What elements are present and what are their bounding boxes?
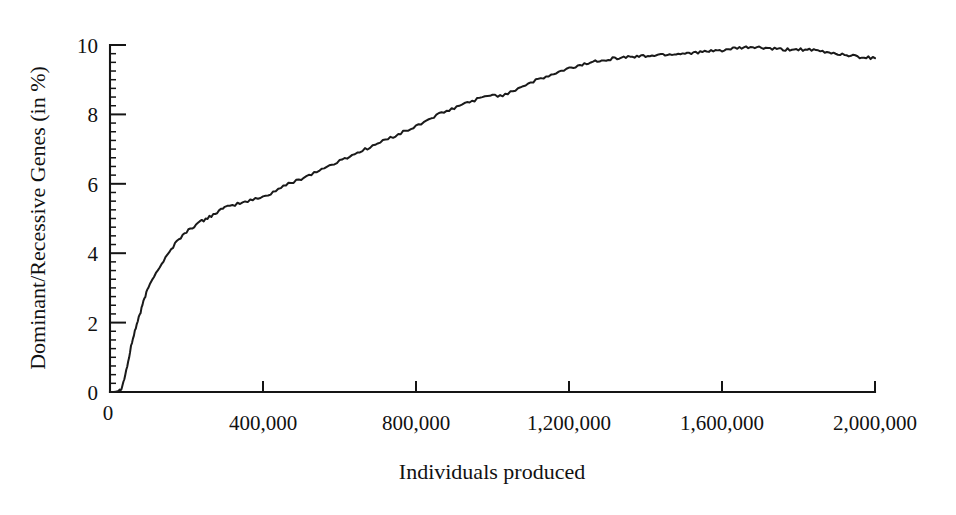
axes-group <box>110 45 875 392</box>
y-tick-label: 4 <box>88 242 99 266</box>
tick-marks-group <box>110 45 875 392</box>
x-tick-label: 0 <box>103 401 114 425</box>
x-tick-label: 1,200,000 <box>527 411 611 435</box>
data-series-group <box>110 46 875 392</box>
chart-canvas: 02468100400,000800,0001,200,0001,600,000… <box>0 0 956 515</box>
x-tick-label: 1,600,000 <box>680 411 764 435</box>
y-tick-label: 0 <box>88 381 99 405</box>
chart-figure: 02468100400,000800,0001,200,0001,600,000… <box>0 0 956 515</box>
y-tick-label: 8 <box>88 103 99 127</box>
y-tick-label: 6 <box>88 173 99 197</box>
tick-labels-group: 02468100400,000800,0001,200,0001,600,000… <box>77 34 917 435</box>
y-tick-label: 2 <box>88 312 99 336</box>
data-series-line <box>110 46 875 392</box>
x-tick-label: 400,000 <box>229 411 297 435</box>
y-axis-title: Dominant/Recessive Genes (in %) <box>25 66 50 370</box>
x-tick-label: 2,000,000 <box>833 411 917 435</box>
y-tick-label: 10 <box>77 34 98 58</box>
x-axis-title: Individuals produced <box>399 459 585 484</box>
x-tick-label: 800,000 <box>382 411 450 435</box>
